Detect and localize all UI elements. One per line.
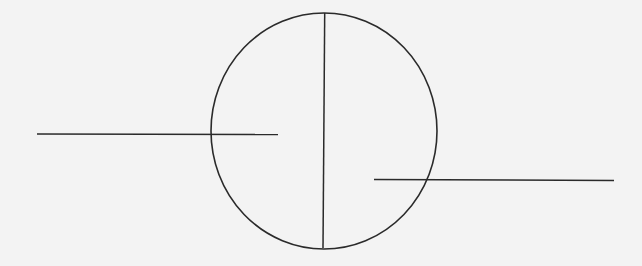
left-horizontal-line <box>37 134 278 135</box>
diagram-canvas <box>0 0 642 266</box>
right-horizontal-line <box>374 180 614 181</box>
vertical-diameter-line <box>323 13 325 248</box>
